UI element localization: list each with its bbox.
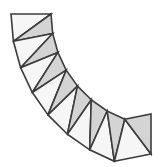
diagram-canvas: [0, 0, 162, 167]
triangulated-arc-figure: [0, 0, 162, 167]
triangle-strip: [11, 14, 151, 161]
